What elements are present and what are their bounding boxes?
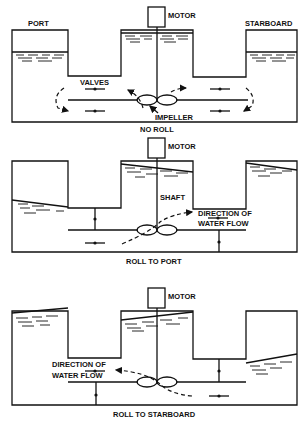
label-flow-line1: DIRECTION OF [198,209,252,218]
flow-arrow [116,370,192,396]
label-flow-line2: WATER FLOW [198,219,250,228]
caption-roll-to-starboard: ROLL TO STARBOARD [113,410,196,419]
water-surface-starboard [246,163,297,176]
anti-roll-tank-diagram: PORT STARBOARD MOTOR VALVES IMPELLER NO … [0,0,307,429]
label-port: PORT [28,19,49,28]
label-valves: VALVES [80,78,109,87]
panel-no-roll: PORT STARBOARD MOTOR VALVES IMPELLER NO … [12,7,297,134]
water-surface-starboard [246,354,297,374]
label-starboard: STARBOARD [245,19,293,28]
impeller-leader [150,106,158,113]
caption-roll-to-port: ROLL TO PORT [126,257,182,266]
label-shaft: SHAFT [160,193,185,202]
panel-roll-to-port: MOTOR SHAFT DIRECTION OF WATER FLOW ROLL… [12,138,297,266]
tank-outline [12,30,297,122]
tank-outline [12,161,297,252]
label-impeller: IMPELLER [155,113,194,122]
label-flow-line1: DIRECTION OF [52,360,106,369]
label-motor: MOTOR [168,142,196,151]
caption-no-roll: NO ROLL [140,125,174,134]
label-motor: MOTOR [168,292,196,301]
water-surface-port [12,52,68,61]
motor [148,7,165,27]
motor [148,138,165,158]
tank-outline [12,311,297,405]
panel-roll-to-starboard: MOTOR DIRECTION OF WATER FLOW ROLL TO ST… [12,288,297,419]
motor [148,288,165,308]
water-surface-port [12,200,68,213]
label-flow-line2: WATER FLOW [52,371,104,380]
label-motor: MOTOR [168,11,196,20]
water-surface-starboard [246,52,297,61]
